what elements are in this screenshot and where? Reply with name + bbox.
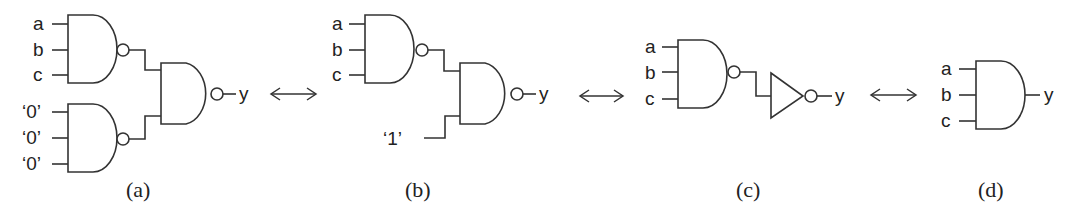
input-label-a: a — [645, 36, 656, 57]
panel-c: a b c y (c) — [645, 36, 845, 202]
inversion-bubble-icon — [117, 133, 129, 145]
output-label-y: y — [835, 85, 845, 106]
inversion-bubble-icon — [805, 90, 817, 102]
inverter-gate — [771, 73, 803, 118]
panel-caption-c: (c) — [736, 177, 760, 202]
input-label-zero-2: ‘0’ — [22, 127, 41, 148]
and-gate — [976, 61, 1025, 129]
nand-gate — [678, 40, 727, 108]
input-label-c: c — [332, 64, 342, 85]
input-label-a: a — [941, 58, 952, 79]
inversion-bubble-icon — [728, 66, 740, 78]
output-label-y: y — [539, 83, 549, 104]
inversion-bubble-icon — [211, 88, 223, 100]
input-label-a: a — [332, 13, 343, 34]
nand-gate-top — [365, 15, 414, 83]
inversion-bubble-icon — [117, 44, 129, 56]
constant-input-one: ‘1’ — [383, 128, 402, 149]
inversion-bubble-icon — [416, 44, 428, 56]
output-label-y: y — [1044, 84, 1054, 105]
panel-caption-d: (d) — [978, 177, 1004, 202]
nand-gate-top — [68, 15, 117, 83]
panel-a: a b c ‘0’ ‘0’ ‘0’ y (a) — [22, 13, 249, 202]
input-label-zero-3: ‘0’ — [22, 153, 41, 174]
double-arrow-icon — [271, 88, 316, 100]
panel-d: a b c y (d) — [941, 58, 1054, 202]
input-label-b: b — [941, 84, 952, 105]
input-label-c: c — [645, 88, 655, 109]
double-arrow-icon — [871, 89, 916, 101]
input-label-b: b — [332, 39, 343, 60]
input-label-b: b — [33, 39, 44, 60]
nand-gate-bottom — [68, 104, 117, 172]
double-arrow-icon — [580, 90, 623, 102]
logic-equivalence-diagram: a b c ‘0’ ‘0’ ‘0’ y (a) a b c — [0, 0, 1082, 224]
panel-caption-a: (a) — [126, 177, 150, 202]
inversion-bubble-icon — [511, 88, 523, 100]
input-label-a: a — [33, 13, 44, 34]
input-label-b: b — [645, 62, 656, 83]
input-label-zero-1: ‘0’ — [22, 101, 41, 122]
input-label-c: c — [33, 64, 43, 85]
input-label-c: c — [941, 110, 951, 131]
output-label-y: y — [239, 83, 249, 104]
panel-caption-b: (b) — [405, 177, 431, 202]
nand-gate-output — [460, 63, 505, 124]
panel-b: a b c ‘1’ y (b) — [332, 13, 549, 202]
nand-gate-output — [161, 63, 206, 124]
